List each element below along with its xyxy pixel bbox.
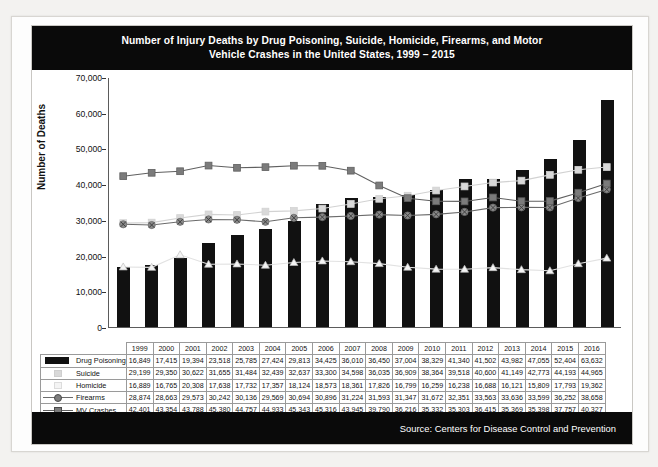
- table-cell: 18,124: [286, 379, 313, 391]
- table-cell: 16,849: [126, 355, 153, 367]
- table-cell: 41,502: [472, 355, 499, 367]
- table-cell: 41,340: [446, 355, 473, 367]
- table-cell: 16,765: [153, 379, 180, 391]
- table-cell: 44,965: [579, 367, 606, 379]
- legend-item-suicide[interactable]: Suicide: [41, 367, 127, 379]
- marker-mv-crashes: [518, 198, 525, 205]
- table-cell: 30,622: [180, 367, 207, 379]
- table-cell: 29,569: [259, 392, 286, 404]
- marker-mv-crashes: [205, 162, 212, 169]
- table-cell: 30,896: [313, 392, 340, 404]
- table-year-header: 2009: [392, 343, 419, 355]
- table-cell: 19,394: [180, 355, 207, 367]
- marker-firearms: [148, 221, 155, 228]
- page-sheet: Number of Injury Deaths by Drug Poisonin…: [11, 16, 649, 452]
- line-suicide: [123, 167, 607, 223]
- table-year-header: 2004: [259, 343, 286, 355]
- marker-mv-crashes: [461, 198, 468, 205]
- table-cell: 15,809: [525, 379, 552, 391]
- table-cell: 16,688: [472, 379, 499, 391]
- plot-inner: [109, 78, 621, 327]
- marker-suicide: [603, 164, 610, 171]
- table-cell: 41,149: [499, 367, 526, 379]
- series-overlay: [109, 78, 621, 327]
- marker-firearms: [205, 216, 212, 223]
- table-cell: 29,350: [153, 367, 180, 379]
- table-cell: 17,826: [366, 379, 393, 391]
- table-cell: 28,663: [153, 392, 180, 404]
- plot-area: [108, 78, 621, 328]
- table-year-header: 1999: [126, 343, 153, 355]
- table-cell: 38,329: [419, 355, 446, 367]
- legend-key-icon: [43, 381, 73, 390]
- marker-mv-crashes: [603, 180, 610, 187]
- y-axis-tick-mark: [102, 292, 106, 293]
- table-cell: 30,136: [233, 392, 260, 404]
- y-axis-tick-label: 10,000: [76, 287, 102, 297]
- table-cell: 18,573: [313, 379, 340, 391]
- table-cell: 32,637: [286, 367, 313, 379]
- marker-suicide: [347, 201, 354, 208]
- chart-title-line-2: Vehicle Crashes in the United States, 19…: [209, 49, 455, 60]
- table-cell: 36,035: [366, 367, 393, 379]
- y-axis-ticks: 70,00060,00050,00040,00030,00020,00010,0…: [50, 70, 106, 344]
- table-cell: 16,799: [392, 379, 419, 391]
- legend-label: Firearms: [76, 393, 105, 402]
- table-year-header: 2011: [446, 343, 473, 355]
- legend-key-icon: [43, 356, 73, 365]
- marker-mv-crashes: [347, 167, 354, 174]
- table-cell: 33,599: [525, 392, 552, 404]
- marker-suicide: [575, 166, 582, 173]
- marker-firearms: [120, 221, 127, 228]
- table-cell: 44,193: [552, 367, 579, 379]
- legend-item-homicide[interactable]: Homicide: [41, 379, 127, 391]
- table-cell: 29,813: [286, 355, 313, 367]
- marker-homicide: [489, 264, 497, 271]
- y-axis-tick-mark: [102, 221, 106, 222]
- table-year-header: 2003: [233, 343, 260, 355]
- y-axis-tick-label: 60,000: [76, 109, 102, 119]
- legend-item-drug-poisoning[interactable]: Drug Poisoning: [41, 355, 127, 367]
- table-cell: 17,732: [233, 379, 260, 391]
- table-body: Drug Poisoning16,84917,41519,39423,51825…: [41, 355, 606, 416]
- marker-firearms: [489, 204, 496, 211]
- line-firearms: [123, 189, 607, 225]
- y-axis-tick-mark: [102, 257, 106, 258]
- table-year-header: 2012: [472, 343, 499, 355]
- table-cell: 17,357: [259, 379, 286, 391]
- table-year-header: 2013: [499, 343, 526, 355]
- marker-suicide: [518, 177, 525, 184]
- table-cell: 37,004: [392, 355, 419, 367]
- table-cell: 33,563: [472, 392, 499, 404]
- y-axis-tick-label: 50,000: [76, 144, 102, 154]
- table-cell: 27,424: [259, 355, 286, 367]
- marker-firearms: [404, 212, 411, 219]
- y-axis-tick-label: 40,000: [76, 180, 102, 190]
- marker-mv-crashes: [319, 162, 326, 169]
- marker-mv-crashes: [575, 189, 582, 196]
- table-cell: 31,593: [366, 392, 393, 404]
- table-cell: 32,439: [259, 367, 286, 379]
- table-cell: 31,655: [206, 367, 233, 379]
- table-corner-cell: [41, 343, 127, 355]
- table-header-row: 1999200020012002200320042005200620072008…: [41, 343, 606, 355]
- table-cell: 23,518: [206, 355, 233, 367]
- table-year-header: 2010: [419, 343, 446, 355]
- table-year-header: 2015: [552, 343, 579, 355]
- line-homicide: [123, 255, 607, 271]
- table-cell: 31,224: [339, 392, 366, 404]
- legend-item-firearms[interactable]: Firearms: [41, 392, 127, 404]
- table-cell: 19,362: [579, 379, 606, 391]
- table-cell: 38,364: [419, 367, 446, 379]
- marker-suicide: [490, 179, 497, 186]
- marker-suicide: [433, 187, 440, 194]
- marker-mv-crashes: [177, 168, 184, 175]
- page-title: Number of Injury Deaths by Drug Poisonin…: [121, 34, 542, 62]
- marker-firearms: [177, 218, 184, 225]
- table-cell: 43,982: [499, 355, 526, 367]
- table-row: Drug Poisoning16,84917,41519,39423,51825…: [41, 355, 606, 367]
- marker-mv-crashes: [120, 173, 127, 180]
- table-cell: 25,785: [233, 355, 260, 367]
- table-cell: 31,484: [233, 367, 260, 379]
- table-year-header: 2007: [339, 343, 366, 355]
